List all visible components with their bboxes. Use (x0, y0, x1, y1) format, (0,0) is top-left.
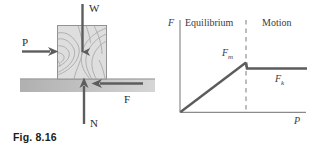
label-normal-force: N (90, 118, 98, 129)
x-axis-label: P (294, 116, 300, 126)
kinetic-friction-curve (246, 63, 307, 69)
label-friction-force: F (124, 94, 130, 105)
applied-force-arrow (22, 47, 59, 56)
figure-caption: Fig. 8.16 (13, 131, 57, 143)
label-weight-force: W (89, 3, 99, 14)
static-friction-curve (181, 63, 247, 113)
annotation-max-static-friction: Fm (222, 48, 233, 61)
free-body-diagram-panel: W P F N Fig. 8.16 (0, 0, 163, 152)
zone-label-equilibrium: Equilibrium (185, 18, 233, 28)
annotation-kinetic-friction-subscript: k (281, 79, 284, 87)
annotation-max-static-friction-subscript: m (228, 53, 233, 61)
free-body-diagram-graphic (0, 0, 163, 152)
annotation-kinetic-friction: Fk (275, 74, 284, 87)
label-applied-force: P (22, 37, 28, 48)
zone-label-motion: Motion (262, 18, 291, 28)
ground-surface (20, 79, 155, 93)
friction-vs-applied-force-chart: F P Equilibrium Motion Fm Fk (163, 0, 325, 152)
figure-container: W P F N Fig. 8.16 F P Equilibrium Motio (0, 0, 325, 152)
y-axis-label: F (168, 18, 174, 28)
